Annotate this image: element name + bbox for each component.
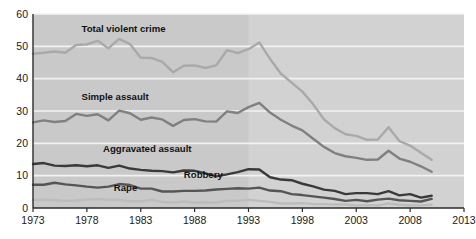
series-label-rape: Rape: [114, 182, 137, 193]
series-label-simple-assault: Simple assault: [81, 91, 149, 102]
x-tick-label: 1998: [291, 214, 315, 226]
y-tick-label: 50: [16, 40, 28, 52]
y-tick-label: 40: [16, 72, 28, 84]
series-label-robbery: Robbery: [184, 169, 224, 180]
x-tick-label: 1973: [21, 214, 45, 226]
series-label-aggravated-assault: Aggravated assault: [103, 143, 192, 154]
chart-canvas: 0102030405060197319781983198819931998200…: [0, 0, 476, 239]
x-tick-label: 1983: [129, 214, 153, 226]
series-label-total-violent-crime: Total violent crime: [81, 23, 165, 34]
x-tick-label: 1993: [237, 214, 261, 226]
x-tick-label: 1978: [75, 214, 99, 226]
y-tick-label: 10: [16, 169, 28, 181]
x-tick-label: 2008: [398, 214, 422, 226]
y-tick-label: 30: [16, 105, 28, 117]
x-tick-label: 1988: [183, 214, 207, 226]
y-tick-label: 60: [16, 8, 28, 20]
violent-crime-rate-chart: 0102030405060197319781983198819931998200…: [0, 0, 476, 239]
y-tick-label: 20: [16, 137, 28, 149]
y-tick-label: 0: [22, 202, 28, 214]
x-tick-label: 2013: [452, 214, 476, 226]
x-tick-label: 2003: [345, 214, 369, 226]
